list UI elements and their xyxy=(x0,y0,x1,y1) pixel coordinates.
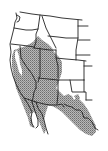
canada-border xyxy=(20,12,82,20)
map-svg xyxy=(0,0,108,151)
range-map: Western United States range map xyxy=(0,0,108,151)
range-shading xyxy=(12,36,96,136)
